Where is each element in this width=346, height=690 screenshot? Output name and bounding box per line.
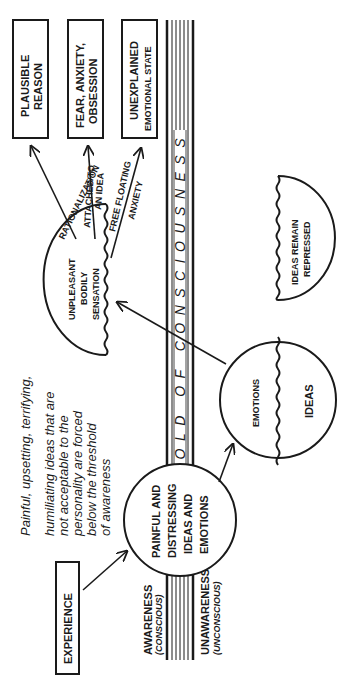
unexplained-line-1: UNEXPLAINED [128,41,140,120]
sensation-line-1: UNPLEASANT [67,258,77,320]
annotation-line-1: Painful, upsetting, terrifying, [18,376,33,536]
ideas-label: IDEAS [303,384,315,418]
experience-box: EXPERIENCE [56,562,79,674]
pathway-free-floating-anxiety: FREE FLOATING ANXIETY [107,148,145,258]
outcome-box-plausible-reason: PLAUSIBLE REASON [13,20,48,138]
free-floating-label-line-2: ANXIETY [126,180,145,220]
experience-label: EXPERIENCE [62,593,74,664]
sensation-line-3: SENSATION [91,268,101,320]
painful-circle-line-2: DISTRESSING [166,483,178,558]
awareness-label: AWARENESS [142,585,154,655]
annotation-line-4: personality are forced [70,410,85,537]
unawareness-label-group: UNAWARENESS (UNCONSCIOUS) [199,569,222,655]
emotions-ideas-circle: EMOTIONS IDEAS [220,337,336,465]
experience-arrow [83,551,127,590]
outcome-box-unexplained-emotional-state: UNEXPLAINED EMOTIONAL STATE [122,20,157,138]
painful-to-split-arrow [219,444,233,482]
sensation-line-2: BODILY [79,272,89,305]
emotions-label: EMOTIONS [251,379,261,427]
unawareness-label: UNAWARENESS [199,569,211,655]
fear-line-1: FEAR, ANXIETY, [74,43,86,128]
painful-circle-line-1: PAINFUL AND [150,485,162,558]
repressed-line-2: REPRESSED [302,221,312,277]
awareness-label-group: AWARENESS (CONSCIOUS) [142,585,164,655]
painful-circle-line-3: IDEAS AND [182,494,194,554]
ideas-repressed-semicircle: IDEAS REMAIN REPRESSED [277,176,335,300]
bodily-sensation-semicircle: UNPLEASANT BODILY SENSATION [44,204,108,355]
outcome-box-fear-anxiety: FEAR, ANXIETY, OBSESSION [68,20,103,138]
plausible-line-2: REASON [32,63,44,110]
annotation-line-2: humiliating ideas that are [42,391,57,536]
unexplained-line-2: EMOTIONAL STATE [143,47,153,132]
annotation-line-6: of awareness [98,458,113,536]
plausible-line-1: PLAUSIBLE [19,55,31,117]
awareness-sublabel: (CONSCIOUS) [154,594,164,655]
repressed-line-1: IDEAS REMAIN [290,219,300,285]
annotation-line-3: not acceptable to the [56,415,71,536]
unawareness-sublabel: (UNCONSCIOUS) [212,581,222,655]
repression-diagram: THRESHOLD OF CONSCIOUSNESS AWARENESS (CO… [0,0,346,690]
annotation-line-5: below the threshold [84,422,99,536]
repression-annotation: Painful, upsetting, terrifying, humiliat… [18,376,113,537]
fear-line-2: OBSESSION [87,59,99,124]
painful-circle-line-4: EMOTIONS [198,495,210,554]
